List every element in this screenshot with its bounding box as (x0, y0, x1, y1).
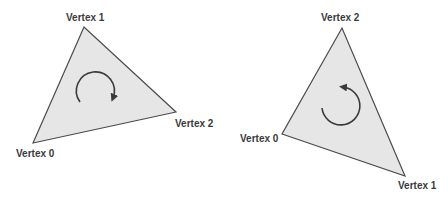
clockwise-triangle-group: Vertex 0 Vertex 1 Vertex 2 (16, 12, 214, 159)
clockwise-triangle (33, 27, 176, 143)
left-vertex-0-label: Vertex 0 (16, 148, 55, 159)
right-vertex-0-label: Vertex 0 (240, 133, 279, 144)
right-vertex-1-label: Vertex 1 (398, 180, 437, 191)
counter-clockwise-triangle-group: Vertex 0 Vertex 1 Vertex 2 (240, 12, 437, 191)
right-vertex-2-label: Vertex 2 (321, 12, 360, 23)
counter-clockwise-triangle (282, 28, 405, 176)
left-vertex-1-label: Vertex 1 (66, 12, 105, 23)
left-vertex-2-label: Vertex 2 (175, 118, 214, 129)
winding-order-diagram: Vertex 0 Vertex 1 Vertex 2 Vertex 0 Vert… (0, 0, 448, 198)
